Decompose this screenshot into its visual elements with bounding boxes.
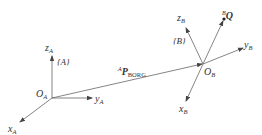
frame-a-x-label: xA	[8, 124, 16, 135]
position-vector-label: APBORG	[118, 66, 146, 79]
frame-b-y-label: yB	[244, 40, 252, 52]
frame-b-name: {B}	[173, 37, 186, 46]
frame-a-origin-label: OA	[36, 89, 47, 101]
point-q-label: BQ	[222, 10, 233, 21]
frame-a-name: {A}	[57, 58, 70, 67]
frame-b-origin-label: OB	[204, 67, 215, 79]
frame-b-x-label: xB	[179, 104, 187, 116]
coordinate-frames-diagram: zA {A} OA yA xA APBORG zB {B} BQ yB OB x…	[0, 0, 262, 135]
frame-b-x-axis	[186, 64, 203, 101]
frame-a-z-label: zA	[45, 43, 53, 55]
frame-a-y-label: yA	[95, 94, 103, 106]
frame-b-z-label: zB	[177, 13, 185, 25]
frame-a-x-axis	[20, 98, 52, 122]
frame-b-z-axis	[186, 28, 203, 64]
